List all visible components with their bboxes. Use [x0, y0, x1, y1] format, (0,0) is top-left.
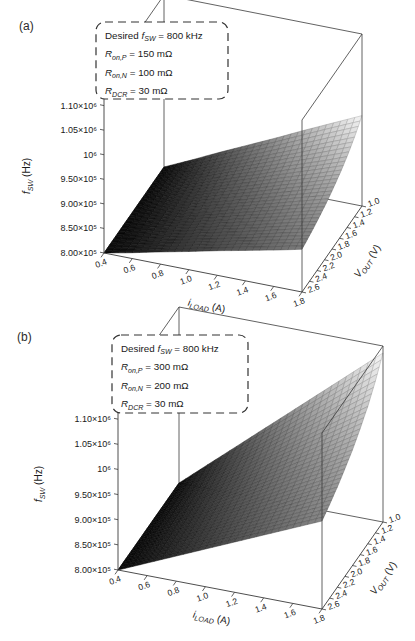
y-tick	[383, 522, 387, 523]
x-tick-label: 0.8	[150, 268, 165, 282]
z-tick	[100, 105, 104, 106]
x-tick-label: 1.4	[235, 284, 250, 298]
surface-mesh	[104, 116, 362, 253]
z-tick	[114, 519, 118, 520]
z-tick-label: 9.50×10⁵	[74, 490, 111, 500]
surface-plot-a: 0.40.60.81.01.21.41.61.81.01.21.41.61.82…	[21, 0, 385, 317]
y-tick	[302, 292, 306, 293]
x-tick-label: 0.4	[108, 573, 123, 587]
z-tick	[100, 203, 104, 204]
y-tick	[347, 228, 351, 229]
z-tick	[100, 252, 104, 253]
x-axis-title: iLOAD (A)	[187, 297, 227, 318]
z-tick-label: 8.50×10⁵	[74, 540, 111, 550]
panel-label-a: (a)	[19, 19, 34, 33]
y-axis-title: VOUT (V)	[368, 559, 401, 598]
x-tick-label: 1.6	[263, 290, 278, 304]
y-tick	[368, 544, 372, 545]
z-tick	[100, 154, 104, 155]
box-edge-top-right	[302, 34, 362, 120]
y-tick	[325, 260, 329, 261]
x-tick-label: 1.6	[283, 607, 298, 621]
x-tick-label: 0.4	[94, 256, 109, 270]
x-tick-label: 1.8	[292, 295, 307, 309]
x-axis-line	[104, 253, 302, 292]
x-tick-label: 1.2	[207, 279, 222, 293]
y-tick	[330, 598, 334, 599]
z-tick-label: 1.10×10⁶	[61, 101, 98, 111]
y-tick	[375, 533, 379, 534]
surface-plot-b: 0.40.60.81.01.21.41.61.81.01.21.41.61.82…	[33, 307, 402, 629]
y-tick	[355, 217, 359, 218]
y-tick	[340, 238, 344, 239]
z-tick	[114, 418, 118, 419]
x-tick-label: 1.8	[312, 612, 327, 626]
y-tick	[332, 249, 336, 250]
figure-canvas: (a) (b) 0.40.60.81.01.21.41.61.81.01.21.…	[0, 0, 415, 641]
x-tick-label: 1.2	[224, 596, 239, 610]
z-tick-label: 8.50×10⁵	[60, 223, 97, 233]
z-tick	[114, 469, 118, 470]
y-tick	[310, 281, 314, 282]
z-tick	[114, 569, 118, 570]
y-tick	[322, 609, 326, 610]
z-tick-label: 8.00×10⁵	[60, 248, 97, 258]
y-tick	[362, 206, 366, 207]
z-axis-title: fSW (Hz)	[21, 158, 35, 194]
y-tick	[353, 566, 357, 567]
annotation-box: Desired fSW = 800 kHzRon,P = 300 mΩRon,N…	[112, 335, 248, 413]
y-tick	[337, 587, 341, 588]
z-tick-label: 9.00×10⁵	[74, 515, 111, 525]
annotation-box: Desired fSW = 800 kHzRon,P = 150 mΩRon,N…	[96, 22, 228, 99]
z-tick-label: 9.00×10⁵	[60, 199, 97, 209]
z-axis-title: fSW (Hz)	[33, 466, 47, 502]
z-tick	[114, 494, 118, 495]
y-tick	[345, 576, 349, 577]
x-tick-label: 0.6	[122, 262, 137, 276]
z-tick	[100, 178, 104, 179]
z-tick	[100, 129, 104, 130]
x-axis-title: iLOAD (A)	[192, 609, 232, 630]
z-tick	[114, 443, 118, 444]
x-tick-label: 0.6	[137, 579, 152, 593]
z-tick-label: 10⁶	[97, 464, 111, 474]
x-tick-label: 1.4	[253, 601, 268, 615]
y-tick	[360, 555, 364, 556]
z-tick-label: 10⁶	[83, 150, 97, 160]
z-tick	[100, 228, 104, 229]
y-tick	[317, 271, 321, 272]
x-tick-label: 1.0	[195, 590, 210, 604]
z-tick-label: 9.50×10⁵	[60, 174, 97, 184]
x-tick-label: 0.8	[166, 585, 181, 599]
z-tick-label: 1.05×10⁶	[61, 125, 98, 135]
y-axis-title: VOUT (V)	[352, 242, 385, 281]
x-axis-line	[118, 570, 322, 609]
panel-label-b: (b)	[17, 330, 32, 344]
z-tick-label: 1.10×10⁶	[75, 414, 112, 424]
z-tick	[114, 544, 118, 545]
x-tick-label: 1.0	[179, 273, 194, 287]
z-tick-label: 1.05×10⁶	[75, 439, 112, 449]
z-tick-label: 8.00×10⁵	[74, 565, 111, 575]
